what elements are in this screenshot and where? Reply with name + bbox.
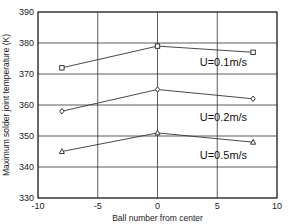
x-axis-tick-labels: -10-50510	[31, 201, 282, 211]
x-tick-label: 10	[272, 201, 282, 211]
x-tick-label: -10	[31, 201, 44, 211]
y-tick-label: 360	[19, 100, 34, 110]
diamond-marker	[60, 109, 64, 114]
y-tick-label: 390	[19, 7, 34, 17]
diamond-marker	[155, 87, 159, 92]
y-axis-tick-labels: 330340350360370380390	[19, 7, 34, 203]
series-label: U=0.1m/s	[200, 56, 248, 68]
square-marker	[251, 50, 255, 54]
x-tick-label: 5	[215, 201, 220, 211]
grid-lines	[38, 12, 277, 198]
triangle-marker	[155, 130, 160, 135]
x-tick-label: -5	[94, 201, 102, 211]
triangle-marker	[251, 139, 256, 144]
x-tick-label: 0	[155, 201, 160, 211]
y-tick-label: 340	[19, 162, 34, 172]
square-marker	[155, 44, 159, 48]
x-axis-title: Ball number from center	[112, 213, 203, 223]
y-tick-label: 380	[19, 38, 34, 48]
diamond-marker	[251, 96, 255, 101]
triangle-marker	[59, 149, 64, 154]
y-axis-title: Maximum solder joint temperature (K)	[1, 34, 11, 176]
series-labels: U=0.1m/sU=0.2m/sU=0.5m/s	[200, 56, 248, 161]
series-label: U=0.5m/s	[200, 149, 248, 161]
y-tick-label: 370	[19, 69, 34, 79]
series-label: U=0.2m/s	[200, 111, 248, 123]
square-marker	[60, 66, 64, 70]
line-chart: 330340350360370380390 -10-50510 Ball num…	[0, 0, 294, 224]
y-tick-label: 350	[19, 131, 34, 141]
